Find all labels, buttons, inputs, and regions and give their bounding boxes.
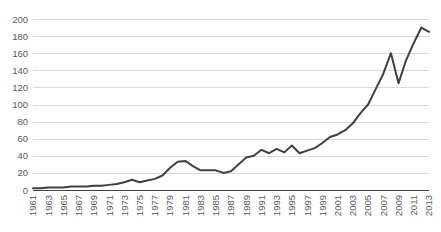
gridlines-group [33, 20, 429, 174]
y-tick-label: 80 [17, 116, 28, 127]
y-axis-tick-labels: 020406080100120140160180200 [12, 14, 28, 196]
x-tick-label: 2009 [393, 195, 404, 216]
x-tick-label: 2013 [423, 195, 434, 216]
y-tick-label: 60 [17, 133, 28, 144]
x-tick-label: 2007 [378, 195, 389, 216]
x-tick-label: 1981 [180, 195, 191, 216]
x-tick-label: 1999 [317, 195, 328, 216]
x-tick-label: 1979 [164, 195, 175, 216]
x-tick-label: 2011 [408, 195, 419, 215]
x-tick-label: 1987 [225, 195, 236, 216]
y-tick-label: 180 [12, 31, 28, 42]
x-tick-label: 1983 [195, 195, 206, 216]
y-tick-label: 140 [12, 65, 28, 76]
x-tick-label: 1969 [88, 195, 99, 216]
x-tick-label: 1997 [302, 195, 313, 216]
x-tick-label: 1971 [104, 195, 115, 216]
y-tick-label: 160 [12, 48, 28, 59]
x-tick-label: 1977 [149, 195, 160, 216]
x-axis-tick-labels: 1961196319651967196919711973197519771979… [27, 195, 434, 216]
x-tick-label: 1961 [27, 195, 38, 216]
x-tick-label: 2001 [332, 195, 343, 216]
y-tick-label: 40 [17, 150, 28, 161]
x-tick-label: 2003 [347, 195, 358, 216]
x-tick-label: 1967 [73, 195, 84, 216]
line-chart: 020406080100120140160180200 196119631965… [0, 0, 441, 232]
x-tick-label: 1965 [58, 195, 69, 216]
y-tick-label: 20 [17, 167, 28, 178]
x-tick-label: 1963 [43, 195, 54, 216]
chart-plot-area: 020406080100120140160180200 196119631965… [0, 0, 441, 232]
y-tick-label: 120 [12, 82, 28, 93]
y-tick-label: 0 [23, 185, 28, 196]
data-series-line [33, 28, 429, 189]
x-tick-label: 1989 [241, 195, 252, 216]
x-tick-label: 1995 [286, 195, 297, 216]
x-tick-label: 1993 [271, 195, 282, 216]
y-tick-label: 100 [12, 99, 28, 110]
x-tick-label: 1985 [210, 195, 221, 216]
x-tick-label: 1975 [134, 195, 145, 216]
x-tick-label: 1991 [256, 195, 267, 216]
x-tick-label: 1973 [119, 195, 130, 216]
x-tick-label: 2005 [362, 195, 373, 216]
y-tick-label: 200 [12, 14, 28, 25]
